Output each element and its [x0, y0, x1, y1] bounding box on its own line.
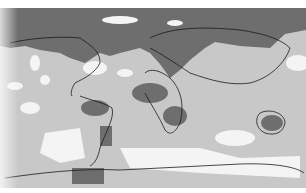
dark-region-amazon: [81, 100, 109, 116]
white-region: [215, 130, 255, 146]
dark-region-south-africa: [163, 106, 187, 126]
dark-region-sahara: [132, 83, 168, 103]
world-map: [0, 8, 306, 188]
white-region: [117, 69, 133, 77]
white-region: [83, 61, 107, 75]
white-region: [167, 20, 183, 26]
map-canvas: [0, 8, 306, 188]
white-region: [102, 16, 138, 24]
white-region: [30, 55, 40, 71]
white-region: [20, 102, 40, 114]
dark-region-australia: [261, 115, 283, 131]
white-region: [40, 75, 50, 85]
left-edge-fade: [0, 8, 18, 188]
